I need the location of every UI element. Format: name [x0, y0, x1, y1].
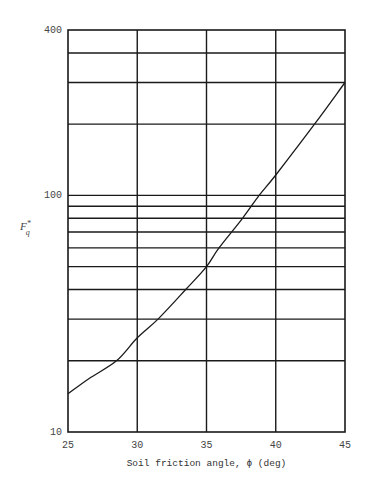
x-tick-labels: 2530354045 — [62, 440, 351, 451]
y-tick-label: 400 — [44, 25, 62, 36]
y-tick-label: 10 — [50, 427, 62, 438]
x-tick-label: 45 — [339, 440, 351, 451]
x-tick-label: 30 — [131, 440, 143, 451]
y-axis-title-sub: q — [26, 228, 30, 237]
chart: 2530354045 40010010 Soil friction angle,… — [0, 0, 369, 493]
x-tick-label: 25 — [62, 440, 74, 451]
y-axis-title-sup: * — [27, 219, 31, 228]
x-axis-title: Soil friction angle, ϕ (deg) — [127, 458, 287, 469]
y-axis-title: F*q — [19, 219, 31, 237]
y-tick-label: 100 — [44, 190, 62, 201]
grid — [68, 30, 345, 432]
x-tick-label: 35 — [200, 440, 212, 451]
x-tick-label: 40 — [270, 440, 282, 451]
y-tick-labels: 40010010 — [44, 25, 62, 438]
